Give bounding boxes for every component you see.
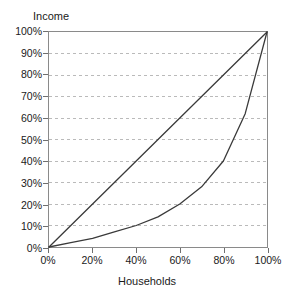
series-line-of-equality [49, 32, 267, 247]
x-tick-mark [136, 248, 137, 253]
y-tick-label: 80% [0, 69, 42, 80]
x-tick-mark [268, 248, 269, 253]
y-tick-label: 10% [0, 221, 42, 232]
x-tick-label: 80% [199, 255, 249, 266]
y-tick-mark [43, 226, 48, 227]
x-tick-label: 20% [67, 255, 117, 266]
y-tick-label: 100% [0, 26, 42, 37]
x-tick-mark [48, 248, 49, 253]
x-tick-label: 100% [243, 255, 293, 266]
y-tick-mark [43, 183, 48, 184]
series-lines [49, 32, 267, 247]
plot-area [48, 31, 268, 248]
y-tick-label: 40% [0, 156, 42, 167]
y-tick-label: 20% [0, 199, 42, 210]
y-tick-mark [43, 205, 48, 206]
y-tick-mark [43, 140, 48, 141]
y-tick-mark [43, 96, 48, 97]
y-axis-title: Income [33, 10, 69, 23]
x-axis-title: Households [0, 275, 294, 288]
y-tick-label: 50% [0, 134, 42, 145]
x-tick-mark [92, 248, 93, 253]
lorenz-curve-chart: Income 0%10%20%30%40%50%60%70%80%90%100%… [0, 0, 294, 296]
y-tick-mark [43, 74, 48, 75]
y-tick-mark [43, 118, 48, 119]
x-tick-mark [180, 248, 181, 253]
y-tick-label: 70% [0, 91, 42, 102]
y-tick-label: 60% [0, 112, 42, 123]
y-tick-mark [43, 161, 48, 162]
y-tick-label: 30% [0, 177, 42, 188]
x-tick-mark [224, 248, 225, 253]
x-tick-label: 60% [155, 255, 205, 266]
x-tick-label: 40% [111, 255, 161, 266]
y-tick-label: 90% [0, 47, 42, 58]
y-tick-mark [43, 31, 48, 32]
y-tick-mark [43, 53, 48, 54]
y-tick-label: 0% [0, 243, 42, 254]
x-tick-label: 0% [23, 255, 73, 266]
